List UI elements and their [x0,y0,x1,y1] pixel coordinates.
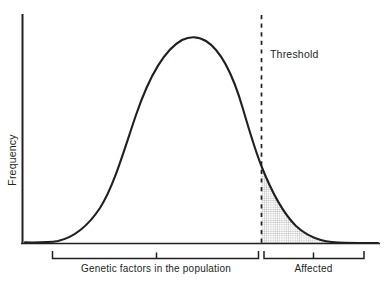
chart-canvas [0,0,389,294]
affected-bracket-label: Affected [263,263,364,276]
threshold-model-chart: Frequency Threshold Genetic factors in t… [0,0,389,294]
threshold-annotation-label: Threshold [270,48,319,60]
bracket-genetic-factors [53,251,259,259]
affected-shaded-region [261,30,380,243]
genetic-factors-bracket-label: Genetic factors in the population [56,263,256,276]
y-axis-label-text: Frequency [4,122,20,198]
distribution-curve [25,37,378,243]
y-axis-label: Frequency [4,122,20,198]
